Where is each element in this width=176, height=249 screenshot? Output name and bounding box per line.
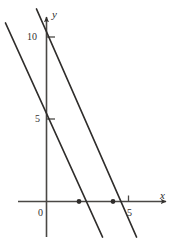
y-tick-label-5: 5 [35,114,40,124]
graph-figure: y x 10 5 0 5 [0,0,176,249]
point-left-x-intercept [77,199,82,204]
point-right-x-intercept [111,199,116,204]
x-tick-label-5: 5 [127,208,132,218]
y-tick-label-10: 10 [27,32,37,42]
line-left [6,23,103,237]
x-axis-label: x [160,190,165,201]
origin-label: 0 [38,208,43,218]
y-axis-label: y [52,9,57,20]
x-axis-group [18,196,166,202]
